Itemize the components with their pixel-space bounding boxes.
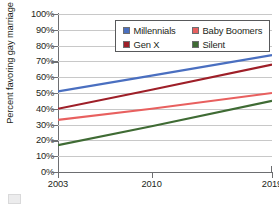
legend-label: Silent — [203, 39, 226, 50]
y-tick-label: 20% — [20, 135, 54, 146]
y-tick-mark — [52, 93, 58, 94]
legend-item-gen-x[interactable]: Gen X — [123, 37, 159, 51]
legend-label: Gen X — [134, 39, 160, 50]
y-tick-label: 10% — [20, 151, 54, 162]
y-tick-mark — [52, 156, 58, 157]
x-tick-mark — [272, 172, 273, 178]
y-tick-mark — [52, 61, 58, 62]
y-tick-label: 100% — [20, 9, 54, 20]
y-axis-tick-labels: 0%10%20%30%40%50%60%70%80%90%100% — [20, 9, 54, 177]
y-tick-mark — [52, 77, 58, 78]
legend-item-silent[interactable]: Silent — [192, 37, 225, 51]
y-tick-mark — [52, 125, 58, 126]
x-tick-mark — [58, 172, 59, 178]
legend-item-baby-boomers[interactable]: Baby Boomers — [192, 23, 262, 37]
x-tick-mark — [152, 172, 153, 178]
y-tick-mark — [52, 14, 58, 15]
x-tick-label: 2019 — [249, 179, 279, 189]
page-corner-artifact — [8, 194, 21, 204]
series-line-baby-boomers — [58, 93, 272, 120]
y-tick-label: 70% — [20, 56, 54, 67]
x-tick-label: 2010 — [129, 179, 175, 189]
y-axis-title: Percent favoring gay marriage — [5, 0, 19, 133]
y-tick-label: 0% — [20, 167, 54, 178]
y-tick-label: 50% — [20, 88, 54, 99]
legend-swatch-icon — [192, 41, 199, 48]
y-tick-label: 60% — [20, 72, 54, 83]
legend-item-millennials[interactable]: Millennials — [123, 23, 176, 37]
y-tick-mark — [52, 30, 58, 31]
legend-label: Millennials — [134, 25, 176, 36]
chart-legend: MillennialsBaby BoomersGen XSilent — [115, 20, 270, 52]
legend-swatch-icon — [123, 27, 130, 34]
legend-swatch-icon — [192, 27, 199, 34]
legend-label: Baby Boomers — [203, 25, 263, 36]
gridline — [58, 172, 272, 173]
y-tick-mark — [52, 109, 58, 110]
y-tick-label: 40% — [20, 104, 54, 115]
x-tick-label: 2003 — [35, 179, 81, 189]
y-tick-label: 30% — [20, 120, 54, 131]
y-tick-mark — [52, 140, 58, 141]
gay-marriage-support-line-chart: Percent favoring gay marriage 0%10%20%30… — [0, 0, 279, 209]
y-tick-label: 80% — [20, 41, 54, 52]
y-tick-mark — [52, 46, 58, 47]
y-tick-label: 90% — [20, 25, 54, 36]
legend-swatch-icon — [123, 41, 130, 48]
